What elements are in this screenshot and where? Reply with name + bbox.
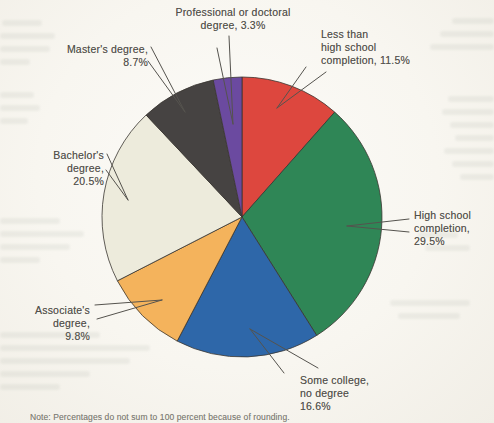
pie-label-professional-or-doctoral: Professional or doctoral degree, 3.3% (163, 6, 303, 32)
pie-label-line: Associate's (35, 304, 90, 317)
pie-label-line: Some college, (300, 374, 369, 387)
pie-label-line: 20.5% (53, 175, 104, 188)
figure-note: Note: Percentages do not sum to 100 perc… (30, 412, 290, 422)
pie-label-line: 9.8% (35, 330, 90, 343)
pie-label-less-than-high-school: Less than high school completion, 11.5% (321, 28, 410, 67)
pie-label-bachelors-degree: Bachelor's degree, 20.5% (53, 149, 104, 188)
pie-label-line: Bachelor's (53, 149, 104, 162)
pie-label-line: Professional or doctoral (163, 6, 303, 19)
pie-label-line: Less than (321, 28, 410, 41)
scanned-figure-page: Professional or doctoral degree, 3.3% Le… (0, 0, 494, 423)
pie-label-line: high school (321, 41, 410, 54)
pie-label-line: no degree (300, 387, 369, 400)
pie-label-line: degree, (35, 317, 90, 330)
pie-label-line: completion, (414, 222, 471, 235)
pie-label-associates-degree: Associate's degree, 9.8% (35, 304, 90, 343)
pie-label-some-college-no-degree: Some college, no degree 16.6% (300, 374, 369, 413)
pie-label-line: 29.5% (414, 235, 471, 248)
pie-label-line: degree, 3.3% (163, 19, 303, 32)
pie-label-line: 16.6% (300, 400, 369, 413)
pie-label-high-school-completion: High school completion, 29.5% (414, 209, 471, 248)
pie-label-line: Master's degree, (67, 43, 148, 56)
pie-label-line: 8.7% (67, 56, 148, 69)
pie-label-line: High school (414, 209, 471, 222)
pie-label-line: completion, 11.5% (321, 54, 410, 67)
pie-label-line: degree, (53, 162, 104, 175)
pie-label-masters-degree: Master's degree, 8.7% (67, 43, 148, 69)
